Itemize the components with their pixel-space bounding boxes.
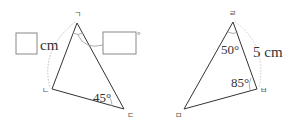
side-unit-label: cm (40, 37, 59, 53)
angle-label-bieup: 85° (231, 75, 249, 90)
angle-arc-giyeok (73, 33, 83, 35)
angle-unit-label: ° (137, 30, 141, 40)
side-answer-box[interactable] (16, 33, 37, 54)
triangle-rieul-bieup-mieum (184, 22, 257, 109)
left-triangle: ㄱ ㄴ ㄷ cm ° 45° (16, 10, 141, 120)
vertex-label-bieup: ㅂ (260, 86, 267, 95)
vertex-label-giyeok: ㄱ (74, 10, 81, 19)
angle-answer-box[interactable] (103, 32, 136, 54)
angle-label-rieul: 50° (221, 42, 239, 57)
vertex-label-digeut: ㄷ (127, 111, 134, 120)
vertex-label-mieum: ㅁ (175, 111, 182, 120)
right-triangle: ㄹ ㅂ ㅁ 50° 85° 5 cm (175, 9, 283, 120)
leader-line (78, 35, 103, 46)
congruent-triangles-diagram: ㄱ ㄴ ㄷ cm ° 45° ㄹ ㅂ ㅁ 50° 85° 5 cm (0, 0, 292, 127)
vertex-label-nieun: ㄴ (42, 86, 49, 95)
vertex-label-rieul: ㄹ (229, 9, 236, 18)
side-length-label: 5 cm (253, 44, 283, 60)
angle-arc-bieup (249, 78, 251, 90)
side-marker-arc (48, 22, 75, 88)
angle-label-digeut: 45° (93, 90, 111, 105)
